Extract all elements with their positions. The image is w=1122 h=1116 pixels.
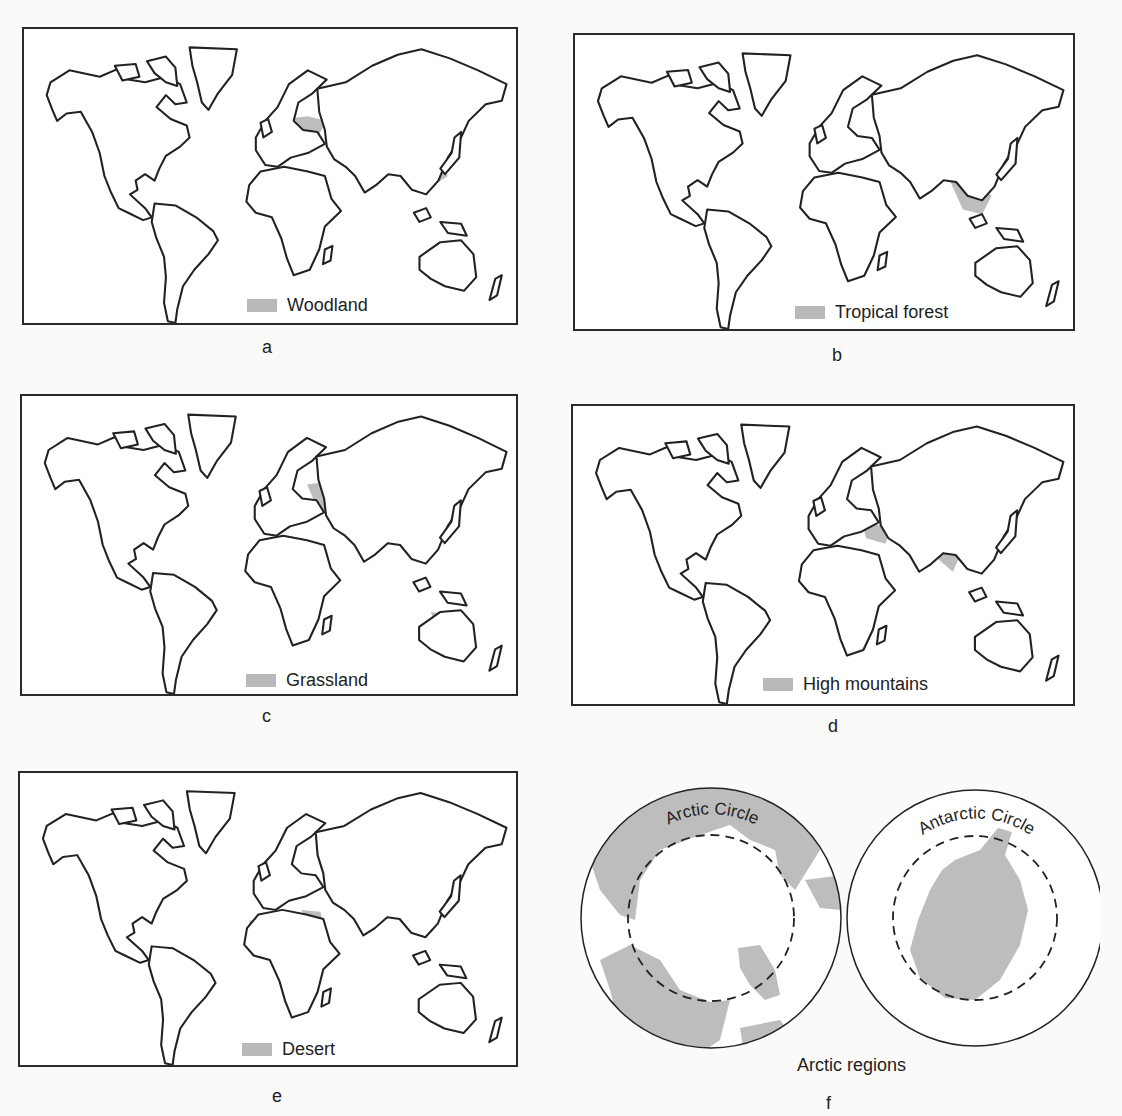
legend: Grassland xyxy=(246,670,368,691)
legend-label: Grassland xyxy=(286,670,368,691)
world-map xyxy=(22,396,516,694)
legend-swatch xyxy=(246,674,276,687)
legend-label: Woodland xyxy=(287,295,368,316)
world-map xyxy=(20,773,516,1065)
panel-caption-c: c xyxy=(262,706,271,727)
legend-swatch xyxy=(795,306,825,319)
map-panel-grassland: Grassland xyxy=(20,394,518,696)
legend-label: Desert xyxy=(282,1039,335,1060)
map-panel-tropical-forest: Tropical forest xyxy=(573,33,1075,331)
polar-maps: Arctic Circle Antarctic Circle xyxy=(580,770,1100,1070)
world-map xyxy=(573,406,1073,704)
legend-swatch xyxy=(242,1043,272,1056)
polar-regions-panel: Arctic Circle Antarctic Circle xyxy=(580,770,1100,1070)
map-panel-desert: Desert xyxy=(18,771,518,1067)
legend-swatch xyxy=(763,678,793,691)
legend-swatch xyxy=(247,299,277,312)
world-map xyxy=(24,29,516,323)
world-map xyxy=(575,35,1073,329)
panel-caption-d: d xyxy=(828,716,838,737)
legend: High mountains xyxy=(763,674,928,695)
legend: Tropical forest xyxy=(795,302,948,323)
panel-caption-b: b xyxy=(832,345,842,366)
legend-label: Tropical forest xyxy=(835,302,948,323)
panel-caption-e: e xyxy=(272,1086,282,1107)
panel-caption-f: f xyxy=(826,1093,831,1114)
legend: Woodland xyxy=(247,295,368,316)
legend: Desert xyxy=(242,1039,335,1060)
arctic-regions-title: Arctic regions xyxy=(797,1055,906,1076)
panel-caption-a: a xyxy=(262,337,272,358)
legend-label: High mountains xyxy=(803,674,928,695)
map-panel-woodland: Woodland xyxy=(22,27,518,325)
map-panel-high-mountains: High mountains xyxy=(571,404,1075,706)
